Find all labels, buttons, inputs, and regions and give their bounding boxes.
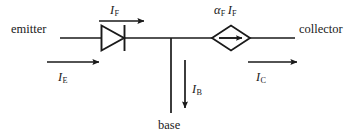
ie-current-label: IE bbox=[58, 71, 67, 84]
diode-triangle bbox=[102, 26, 125, 51]
if-current-label: IF bbox=[110, 4, 119, 17]
if-subscript: F bbox=[114, 9, 119, 18]
gain-current-subscript: F bbox=[232, 9, 237, 18]
ib-subscript: B bbox=[196, 88, 201, 97]
ib-current-label: IB bbox=[192, 83, 202, 96]
current-source-gain-label: αFIF bbox=[214, 4, 236, 17]
emitter-terminal-label: emitter bbox=[11, 23, 46, 36]
alpha-subscript: F bbox=[221, 9, 226, 18]
collector-terminal-label: collector bbox=[299, 23, 343, 36]
alpha-symbol: α bbox=[214, 3, 221, 17]
ie-subscript: E bbox=[62, 76, 67, 85]
circuit-diagram: emitter collector base IF IE IB IC αFIF bbox=[0, 0, 354, 136]
base-terminal-label: base bbox=[158, 119, 180, 132]
ic-subscript: C bbox=[260, 76, 265, 85]
ic-current-label: IC bbox=[256, 71, 266, 84]
circuit-schematic-svg bbox=[0, 0, 354, 136]
